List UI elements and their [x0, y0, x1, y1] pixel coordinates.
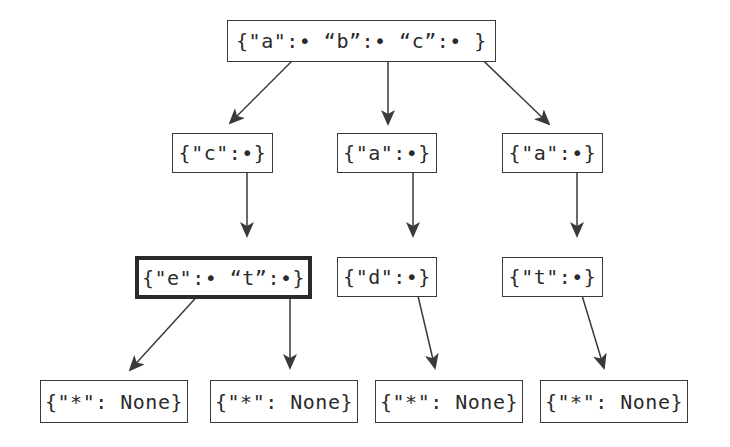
- node-label: {"*": None}: [215, 390, 353, 414]
- node-label: {"a":•}: [343, 141, 431, 165]
- trie-leaf-ace: {"*": None}: [40, 380, 188, 423]
- trie-node-ca: {"t":•}: [502, 257, 603, 297]
- node-label: {"a":•}: [509, 141, 597, 165]
- trie-node-c: {"a":•}: [502, 133, 603, 173]
- node-label: {"d":•}: [343, 265, 431, 289]
- node-label: {"e":• “t”:•}: [142, 266, 305, 290]
- trie-leaf-bad: {"*": None}: [375, 380, 523, 423]
- node-label: {"*": None}: [545, 390, 683, 414]
- trie-node-root: {"a":• “b”:• “c”:• }: [227, 20, 496, 62]
- node-label: {"a":• “b”:• “c”:• }: [236, 29, 487, 53]
- trie-leaf-cat: {"*": None}: [540, 380, 688, 423]
- node-label: {"c":•}: [179, 141, 267, 165]
- trie-leaf-act: {"*": None}: [210, 380, 358, 423]
- trie-node-b: {"a":•}: [337, 133, 437, 173]
- node-label: {"*": None}: [380, 390, 518, 414]
- trie-node-a: {"c":•}: [172, 133, 273, 173]
- node-label: {"t":•}: [509, 265, 597, 289]
- trie-diagram: {"a":• “b”:• “c”:• } {"c":•} {"a":•} {"a…: [0, 0, 730, 447]
- trie-node-ac-highlighted: {"e":• “t”:•}: [135, 256, 312, 299]
- node-label: {"*": None}: [45, 390, 183, 414]
- trie-node-ba: {"d":•}: [337, 257, 437, 297]
